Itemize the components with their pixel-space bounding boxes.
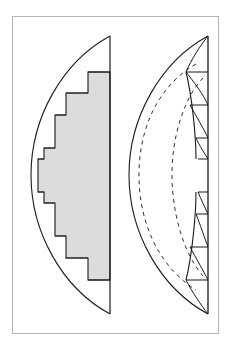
inner-solid-arc-right-lower (186, 192, 196, 280)
outer-dashed-arc (139, 64, 196, 290)
inner-solid-arc-right (186, 72, 196, 159)
wedge-ray (186, 36, 208, 72)
wedge-ray (196, 138, 208, 159)
wedge-ray (196, 214, 208, 247)
wedge-rays-right (186, 36, 208, 314)
segment-arc-right (129, 36, 208, 314)
figure-canvas (0, 0, 237, 352)
wedge-ray (198, 192, 208, 214)
wedge-chords-right (186, 72, 208, 280)
geometric-figure (0, 0, 237, 352)
wedge-ray (190, 247, 208, 280)
right-panel (129, 36, 208, 314)
inner-dashed-arc (172, 78, 203, 276)
left-panel (31, 36, 110, 314)
wedge-ray (190, 105, 208, 138)
